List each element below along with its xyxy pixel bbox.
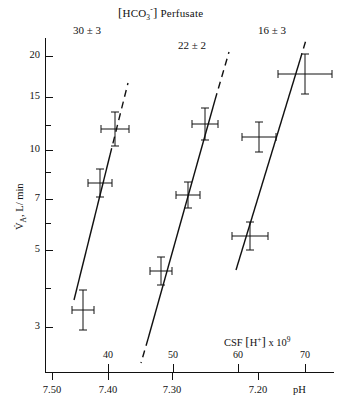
x-tick-label-h-50: 50 xyxy=(153,350,193,360)
series-label-16: 16 ± 3 xyxy=(258,25,286,36)
y-tick-label-20: 20 xyxy=(18,50,40,61)
x-tick-label-h-60: 60 xyxy=(218,350,258,360)
x-axis-bracket-close: ] xyxy=(261,334,265,349)
data-point-22-1 xyxy=(150,257,172,285)
y-axis-label-rest: , L/ min xyxy=(14,183,25,217)
y-tick-label-10: 10 xyxy=(18,144,40,155)
fit-line-dashed-22 xyxy=(215,52,229,100)
series-label-22: 22 ± 2 xyxy=(178,40,206,51)
x-axis-exponent: 9 xyxy=(287,335,291,344)
x-axis-top-label: CSF [H+] x 109 xyxy=(224,335,291,349)
data-point-16-1 xyxy=(232,222,268,250)
fit-line-dashed-30 xyxy=(110,83,128,155)
x-axis-bottom-label: pH xyxy=(293,385,306,396)
x-tick-label-h-70: 70 xyxy=(285,350,325,360)
data-point-16-3 xyxy=(278,54,332,94)
chart-figure: [HCO3-] Perfusate xyxy=(0,0,338,404)
series-label-30: 30 ± 3 xyxy=(73,25,101,36)
x-tick-label-ph-740: 7.40 xyxy=(87,385,129,396)
x-axis-times: x 10 xyxy=(268,337,286,348)
data-point-22-2 xyxy=(176,182,200,208)
x-tick-label-ph-730: 7.30 xyxy=(151,385,193,396)
y-axis-label-symbol: V̇A xyxy=(14,217,25,230)
x-tick-label-ph-720: 7.20 xyxy=(237,385,279,396)
fit-line-dashed-22-lower xyxy=(141,339,148,363)
y-tick-label-3: 3 xyxy=(18,321,40,332)
y-axis-label: V̇A, L/ min xyxy=(14,183,28,230)
data-point-30-3 xyxy=(101,112,129,146)
series-30 xyxy=(72,83,129,330)
data-point-16-2 xyxy=(242,122,276,152)
series-16 xyxy=(232,40,332,270)
x-tick-label-h-40: 40 xyxy=(88,350,128,360)
y-axis-label-sub: A xyxy=(19,217,28,222)
x-tick-label-ph-750: 7.50 xyxy=(31,385,73,396)
fit-line-solid-30 xyxy=(74,155,110,300)
data-point-22-3 xyxy=(192,108,218,140)
data-point-30-2 xyxy=(88,169,112,197)
series-22 xyxy=(141,52,229,363)
y-tick-label-15: 15 xyxy=(18,91,40,102)
x-axis-csf-text: CSF xyxy=(224,337,243,348)
y-tick-label-5: 5 xyxy=(18,244,40,255)
